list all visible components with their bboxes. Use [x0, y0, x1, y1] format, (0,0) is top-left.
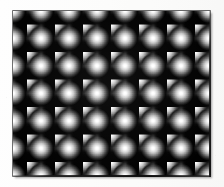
- plate-edge-right: [209, 11, 211, 177]
- plate-edge-bottom: [13, 175, 211, 177]
- figure-page: Grayscale two-dimensional sinusoidal che…: [0, 0, 224, 187]
- scan-grain-overlay: [13, 11, 210, 176]
- checkerboard-pattern-image: [13, 11, 210, 176]
